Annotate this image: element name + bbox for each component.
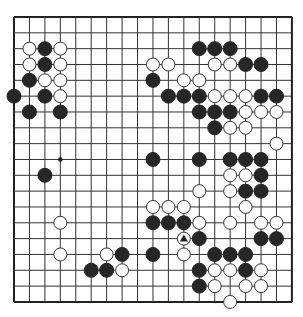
black-stone[interactable] [239,184,253,198]
white-stone[interactable] [208,280,221,293]
black-stone[interactable] [177,216,191,230]
black-stone[interactable] [269,232,283,246]
white-stone[interactable] [224,90,237,103]
black-stone[interactable] [146,247,160,261]
white-stone[interactable] [224,295,237,308]
black-stone[interactable] [38,89,52,103]
white-stone[interactable] [54,248,67,261]
white-stone[interactable] [116,264,129,277]
white-stone[interactable] [239,105,252,118]
black-stone[interactable] [239,152,253,166]
white-stone[interactable] [54,216,67,229]
black-stone[interactable] [208,42,222,56]
white-stone[interactable] [146,200,159,213]
white-stone[interactable] [54,74,67,87]
black-stone[interactable] [146,152,160,166]
white-stone[interactable] [239,121,252,134]
black-stone[interactable] [146,73,160,87]
black-stone[interactable] [192,279,206,293]
black-stone[interactable] [7,89,21,103]
black-stone[interactable] [192,89,206,103]
black-stone[interactable] [254,184,268,198]
white-stone[interactable] [224,185,237,198]
white-stone[interactable] [100,248,113,261]
black-stone[interactable] [161,89,175,103]
black-stone[interactable] [254,168,268,182]
white-stone[interactable] [270,105,283,118]
white-stone[interactable] [255,280,268,293]
white-stone[interactable] [54,58,67,71]
white-stone[interactable] [177,200,190,213]
white-stone[interactable] [224,169,237,182]
black-stone[interactable] [223,247,237,261]
white-stone[interactable] [54,42,67,55]
white-stone[interactable] [255,216,268,229]
white-stone[interactable] [54,90,67,103]
white-stone[interactable] [193,74,206,87]
white-stone[interactable] [255,264,268,277]
black-stone[interactable] [239,247,253,261]
black-stone[interactable] [239,57,253,71]
black-stone[interactable] [115,247,129,261]
white-stone[interactable] [208,90,221,103]
white-stone[interactable] [270,137,283,150]
black-stone[interactable] [208,247,222,261]
white-stone[interactable] [239,200,252,213]
white-stone[interactable] [239,90,252,103]
white-stone[interactable] [177,248,190,261]
black-stone[interactable] [22,105,36,119]
black-stone[interactable] [208,121,222,135]
black-stone[interactable] [254,232,268,246]
black-stone[interactable] [177,89,191,103]
white-stone[interactable] [23,58,36,71]
black-stone[interactable] [38,42,52,56]
black-stone[interactable] [223,152,237,166]
black-stone[interactable] [161,216,175,230]
black-stone[interactable] [192,105,206,119]
star-point [58,157,63,162]
black-stone[interactable] [22,73,36,87]
black-stone[interactable] [239,263,253,277]
white-stone[interactable] [146,58,159,71]
black-stone[interactable] [269,89,283,103]
white-stone[interactable] [208,264,221,277]
black-stone[interactable] [254,89,268,103]
white-stone[interactable] [270,216,283,229]
white-stone[interactable] [224,216,237,229]
black-stone[interactable] [223,105,237,119]
white-stone[interactable] [177,74,190,87]
white-stone[interactable] [208,58,221,71]
white-stone[interactable] [255,105,268,118]
black-stone[interactable] [38,168,52,182]
black-stone[interactable] [146,216,160,230]
white-stone[interactable] [193,185,206,198]
white-stone[interactable] [38,74,51,87]
white-stone[interactable] [224,264,237,277]
white-stone[interactable] [162,200,175,213]
white-stone[interactable] [224,58,237,71]
star-points [58,157,63,162]
black-stone[interactable] [254,152,268,166]
black-stone[interactable] [192,152,206,166]
white-stone[interactable] [224,121,237,134]
black-stone[interactable] [38,57,52,71]
go-board[interactable] [0,0,303,317]
white-stone[interactable] [162,58,175,71]
black-stone[interactable] [192,42,206,56]
black-stone[interactable] [223,42,237,56]
black-stone[interactable] [192,232,206,246]
white-stone[interactable] [193,216,206,229]
black-stone[interactable] [254,57,268,71]
white-stone[interactable] [23,42,36,55]
black-stone[interactable] [53,105,67,119]
white-stone[interactable] [239,169,252,182]
black-stone[interactable] [192,263,206,277]
black-stone[interactable] [84,263,98,277]
white-stone[interactable] [239,280,252,293]
go-board-canvas[interactable] [0,0,303,317]
black-stone[interactable] [100,263,114,277]
black-stone[interactable] [208,105,222,119]
